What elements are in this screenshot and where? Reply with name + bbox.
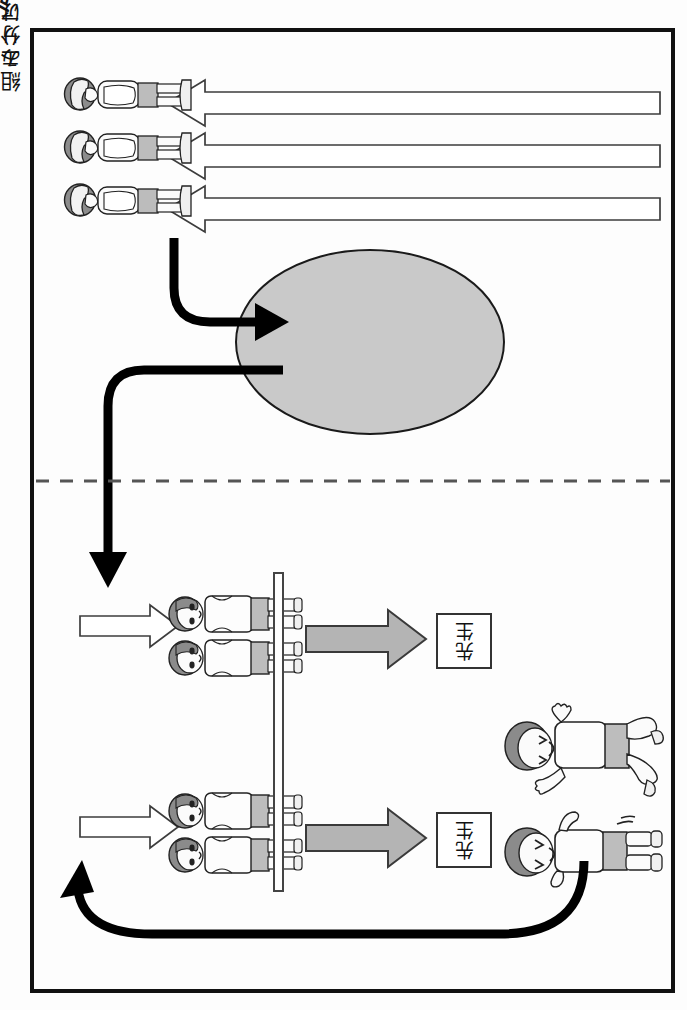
- queue-figure-3: [65, 184, 192, 216]
- white-arrow-short-1: [80, 605, 178, 647]
- white-arrow-long-2: [167, 133, 660, 179]
- diagram-canvas: [0, 0, 687, 1010]
- flow-arrow-out-of-oval: [89, 370, 283, 588]
- queue-figure-1: [65, 78, 192, 110]
- gray-arrow-to-teacher-1: [306, 610, 426, 668]
- partition-wall: [273, 572, 284, 892]
- exiting-figure-1: [505, 704, 663, 797]
- teacher-box-2: 先生: [436, 812, 492, 868]
- white-arrow-short-2: [80, 806, 178, 848]
- white-arrow-long-1: [167, 80, 660, 126]
- return-loop-arrow: [60, 860, 584, 934]
- teacher-box-1-label: 先生: [451, 621, 478, 661]
- queue-figure-2: [65, 131, 192, 163]
- teacher-box-1: 先生: [436, 613, 492, 669]
- white-arrow-long-3: [167, 186, 660, 232]
- sorting-area-label-line1: 組み分け: [0, 0, 26, 92]
- sorting-area-oval: [236, 250, 504, 434]
- teacher-box-2-label: 先生: [451, 820, 478, 860]
- diagram-page: 問題 1: [0, 0, 687, 1010]
- gray-arrow-to-teacher-2: [306, 809, 426, 867]
